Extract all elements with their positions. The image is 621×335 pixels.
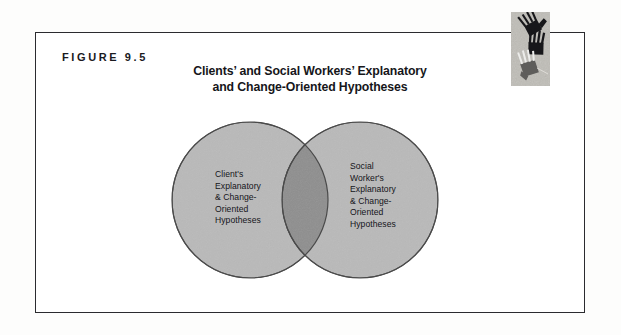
figure-title-line-1: Clients’ and Social Workers’ Explanatory — [120, 63, 500, 79]
venn-right-line-5: Oriented — [350, 207, 396, 219]
venn-left-line-2: Explanatory — [215, 181, 261, 193]
venn-right-line-1: Social — [350, 161, 396, 173]
striped-hands-illustration — [511, 12, 550, 86]
venn-right-line-3: Explanatory — [350, 184, 396, 196]
figure-number-label: FIGURE 9.5 — [62, 51, 148, 63]
venn-left-line-4: Oriented — [215, 204, 261, 216]
venn-left-line-5: Hypotheses — [215, 215, 261, 227]
venn-left-label: Client's Explanatory & Change- Oriented … — [215, 169, 261, 227]
venn-right-line-4: & Change- — [350, 196, 396, 208]
figure-title-line-2: and Change-Oriented Hypotheses — [120, 79, 500, 95]
venn-left-line-3: & Change- — [215, 192, 261, 204]
venn-right-line-2: Worker's — [350, 173, 396, 185]
venn-right-label: Social Worker's Explanatory & Change- Or… — [350, 161, 396, 230]
figure-page: FIGURE 9.5 Clients’ and Social Workers’ … — [0, 0, 621, 335]
venn-right-line-6: Hypotheses — [350, 219, 396, 231]
venn-diagram: Client's Explanatory & Change- Oriented … — [165, 115, 450, 287]
venn-left-line-1: Client's — [215, 169, 261, 181]
figure-title: Clients’ and Social Workers’ Explanatory… — [120, 63, 500, 95]
